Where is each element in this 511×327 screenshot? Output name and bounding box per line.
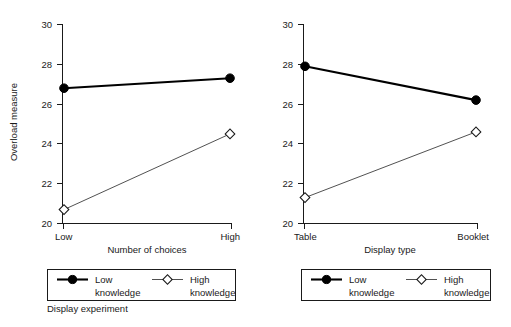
y-tick-label: 24	[282, 138, 293, 149]
legend-marker-filled-circle	[68, 275, 76, 283]
legend-label-low-line1: Low	[349, 274, 367, 285]
chart-panel-left: Overload measure 30 28 26 24 22 2	[0, 0, 255, 327]
legend-label-low-line2: knowledge	[349, 287, 394, 298]
x-axis-ticks-right	[305, 224, 478, 230]
chart-svg-right: 30 28 26 24 22 20 Table Booklet Display …	[256, 0, 511, 327]
legend-right: Low knowledge High knowledge	[302, 270, 491, 301]
y-axis-ticks-right	[298, 25, 304, 224]
y-tick-label: 28	[282, 59, 293, 70]
y-tick-label: 20	[282, 218, 293, 229]
legend-label-high-line1: High	[190, 274, 210, 285]
x-axis-category-labels-left: Low High	[55, 231, 240, 242]
legend-label-low-line2: knowledge	[95, 287, 140, 298]
figure-caption: Display experiment	[47, 303, 128, 314]
y-tick-label: 22	[282, 178, 293, 189]
svg-text:Overload measure: Overload measure	[8, 83, 19, 161]
y-tick-label: 22	[41, 178, 52, 189]
data-point-marker	[59, 205, 69, 215]
series-low-knowledge-left	[60, 74, 235, 93]
data-point-marker	[472, 96, 481, 105]
data-point-marker	[301, 62, 310, 71]
legend-label-high-line1: High	[444, 274, 464, 285]
x-axis-ticks-left	[64, 224, 232, 230]
legend-label-low-line1: Low	[95, 274, 113, 285]
data-point-marker	[60, 84, 69, 93]
data-point-marker	[226, 74, 235, 83]
y-tick-label: 28	[41, 59, 52, 70]
series-high-knowledge-left	[59, 129, 235, 214]
legend-marker-open-diamond	[163, 275, 172, 284]
x-axis-title-right: Display type	[364, 244, 416, 255]
legend-label-high-line2: knowledge	[190, 287, 235, 298]
y-axis-tick-labels-right: 30 28 26 24 22 20	[282, 19, 293, 229]
y-tick-label: 30	[41, 19, 52, 30]
data-point-marker	[300, 193, 310, 203]
y-tick-label: 20	[41, 218, 52, 229]
y-tick-label: 24	[41, 138, 52, 149]
x-category-label-booklet: Booklet	[457, 231, 489, 242]
y-tick-label: 30	[282, 19, 293, 30]
legend-marker-open-diamond	[417, 275, 426, 284]
series-high-knowledge-right	[300, 127, 481, 202]
x-axis-category-labels-right: Table Booklet	[294, 231, 489, 242]
series-low-knowledge-right	[301, 62, 481, 104]
legend-left: Low knowledge High knowledge	[48, 270, 236, 301]
data-point-marker	[471, 127, 481, 137]
display-experiment-figure: Overload measure 30 28 26 24 22 2	[0, 0, 511, 327]
chart-panel-right: 30 28 26 24 22 20 Table Booklet Display …	[256, 0, 511, 327]
legend-marker-filled-circle	[322, 275, 330, 283]
y-axis-tick-labels-left: 30 28 26 24 22 20	[41, 19, 52, 229]
x-axis-title-left: Number of choices	[107, 244, 186, 255]
legend-label-high-line2: knowledge	[444, 287, 489, 298]
y-tick-label: 26	[282, 99, 293, 110]
data-point-marker	[225, 129, 235, 139]
x-category-label-high: High	[220, 231, 240, 242]
x-category-label-table: Table	[294, 231, 317, 242]
y-axis-title-left: Overload measure	[8, 83, 19, 161]
y-tick-label: 26	[41, 99, 52, 110]
x-category-label-low: Low	[55, 231, 73, 242]
chart-svg-left: Overload measure 30 28 26 24 22 2	[0, 0, 255, 327]
y-axis-ticks-left	[57, 25, 63, 224]
